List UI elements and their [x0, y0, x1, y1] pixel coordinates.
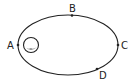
label-c: C: [121, 40, 128, 51]
central-body: [24, 38, 39, 53]
point-c-marker: [117, 44, 120, 47]
orbit-diagram: A B C D: [0, 0, 132, 82]
point-b-marker: [71, 14, 74, 17]
point-d-marker: [96, 68, 99, 71]
label-d: D: [99, 70, 107, 81]
label-b: B: [69, 3, 76, 14]
point-a-marker: [17, 44, 20, 47]
label-a: A: [7, 40, 14, 51]
